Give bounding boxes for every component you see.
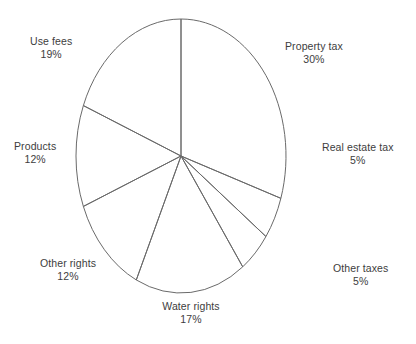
pie-label-other-taxes: Other taxes5% (333, 262, 388, 288)
pie-label-name-real-estate-tax: Real estate tax (322, 141, 394, 154)
pie-label-property-tax: Property tax30% (285, 40, 343, 66)
pie-label-use-fees: Use fees19% (30, 35, 72, 61)
pie-slice-use-fees (83, 19, 181, 156)
pie-label-percent-property-tax: 30% (285, 53, 343, 66)
pie-label-name-other-taxes: Other taxes (333, 262, 388, 275)
pie-label-name-property-tax: Property tax (285, 40, 343, 53)
pie-label-name-products: Products (14, 140, 56, 153)
pie-slice-water-rights (136, 156, 242, 293)
pie-label-percent-other-rights: 12% (40, 270, 96, 283)
pie-label-name-water-rights: Water rights (162, 300, 219, 313)
pie-label-name-use-fees: Use fees (30, 35, 72, 48)
pie-label-percent-products: 12% (14, 153, 56, 166)
pie-label-other-rights: Other rights12% (40, 257, 96, 283)
pie-label-water-rights: Water rights17% (162, 300, 219, 326)
pie-chart-figure: Property tax30%Real estate tax5%Other ta… (0, 0, 416, 344)
pie-slice-other-taxes (181, 156, 266, 267)
pie-label-products: Products12% (14, 140, 56, 166)
pie-label-name-other-rights: Other rights (40, 257, 96, 270)
pie-slice-products (76, 106, 181, 207)
pie-label-percent-water-rights: 17% (162, 313, 219, 326)
pie-label-percent-use-fees: 19% (30, 48, 72, 61)
pie-slice-group (76, 19, 286, 293)
pie-label-real-estate-tax: Real estate tax5% (322, 141, 394, 167)
pie-slice-real-estate-tax (181, 156, 281, 237)
pie-slice-other-rights (83, 156, 181, 280)
pie-label-percent-other-taxes: 5% (333, 275, 388, 288)
pie-label-percent-real-estate-tax: 5% (322, 154, 394, 167)
